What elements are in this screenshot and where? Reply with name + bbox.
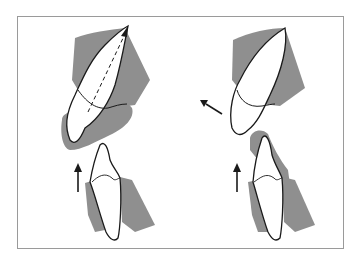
lower-tissue-left-2: [120, 177, 155, 232]
arrow-outward-shaft: [206, 104, 222, 114]
dental-diagram: [0, 0, 359, 262]
lower-tissue-right-2: [282, 177, 315, 232]
arrow-outward-icon: [200, 100, 208, 107]
left-panel: [61, 26, 155, 240]
right-panel: [200, 28, 315, 240]
arrow-up-icon-right: [233, 163, 241, 172]
arrow-up-icon: [74, 163, 82, 172]
